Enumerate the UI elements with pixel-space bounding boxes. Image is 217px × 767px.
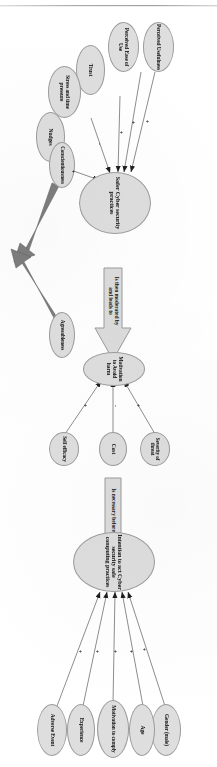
edge-group-mediator-antecedents xyxy=(65,381,155,434)
node-motivation-to-comply[interactable]: Motivation to comply xyxy=(97,700,129,758)
node-label: Conscientiousness xyxy=(59,144,64,186)
node-label: Safer Cyber security practices xyxy=(109,174,122,232)
band-label: Is necessary before xyxy=(110,488,116,532)
node-agreeableness[interactable]: Agreeableness xyxy=(49,312,75,358)
band-necessary-before: Is necessary before xyxy=(105,482,121,538)
sign-usefulness-to-practices: + xyxy=(145,120,151,123)
sign-age-to-intention: + xyxy=(129,650,135,653)
conceptual-model-figure: Perceived Usefulness Perceived Ease of U… xyxy=(0,0,217,767)
node-label: Intention to act Cyber security safe com… xyxy=(105,534,124,590)
edge-group-individual-differences xyxy=(57,592,165,706)
node-label: Gender (male) xyxy=(163,706,169,754)
sign-severity-to-motivation: + xyxy=(136,404,142,407)
diagram-canvas: Perceived Usefulness Perceived Ease of U… xyxy=(0,0,217,767)
node-label: Experience xyxy=(78,706,84,754)
sign-nudges-to-practices: + xyxy=(71,170,77,173)
node-gender-male[interactable]: Gender (male) xyxy=(151,704,181,756)
node-label: Agreeableness xyxy=(59,314,64,356)
sign-stress-to-practices: - xyxy=(97,143,103,145)
node-age[interactable]: Age xyxy=(129,704,155,756)
node-label: Perceived Usefulness xyxy=(156,24,162,70)
sign-ease-of-use-to-practices: + xyxy=(131,121,137,124)
node-label: Age xyxy=(139,706,145,754)
node-label: Perceived Ease of Use xyxy=(118,24,129,70)
node-label: Adverse Event xyxy=(49,706,55,754)
sign-gender-to-intention: + xyxy=(142,648,148,651)
node-experience[interactable]: Experience xyxy=(67,704,95,756)
sign-trust-to-practices: + xyxy=(119,131,125,134)
node-label: Motivation to Avoid harm xyxy=(105,354,122,384)
node-safer-cyber-security-practices[interactable]: Safer Cyber security practices xyxy=(79,172,151,234)
node-self-efficacy[interactable]: Self efficacy xyxy=(49,432,79,466)
node-label: Cost xyxy=(110,434,116,464)
band-moderated-by: Is then moderated by and leads to xyxy=(104,272,122,330)
node-adverse-event[interactable]: Adverse Event xyxy=(37,704,67,756)
sign-self-efficacy-to-motivation: + xyxy=(83,404,89,407)
node-label: Motivation to comply xyxy=(110,702,116,756)
node-perceived-ease-of-use[interactable]: Perceived Ease of Use xyxy=(108,22,139,72)
node-label: Severity of threat xyxy=(150,434,161,464)
node-motivation-to-avoid-harm[interactable]: Motivation to Avoid harm xyxy=(83,352,145,386)
moderator-heavy-arrows xyxy=(11,183,60,322)
node-stress-and-time-pressure[interactable]: Stress and time pressure xyxy=(48,66,81,118)
band-label: Is then moderated by and leads to xyxy=(107,272,118,330)
node-perceived-usefulness[interactable]: Perceived Usefulness xyxy=(143,22,174,72)
node-cost[interactable]: Cost xyxy=(99,432,127,466)
node-label: Self efficacy xyxy=(61,434,66,464)
node-label: Trust xyxy=(88,47,94,93)
sign-comply-to-intention: + xyxy=(113,650,119,653)
node-label: Stress and time pressure xyxy=(59,68,70,116)
sign-experience-to-intention: + xyxy=(95,650,101,653)
sign-cost-to-motivation: - xyxy=(113,405,119,407)
node-conscientiousness[interactable]: Conscientiousness xyxy=(49,142,75,188)
sign-adverse-to-intention: + xyxy=(78,650,84,653)
node-severity-of-threat[interactable]: Severity of threat xyxy=(140,432,170,466)
node-intention-to-act[interactable]: Intention to act Cyber security safe com… xyxy=(73,532,155,592)
